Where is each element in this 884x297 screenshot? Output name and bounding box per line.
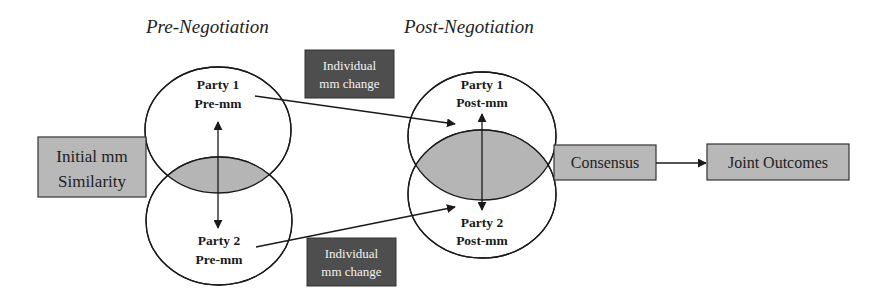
post-party1-sublabel: Post-mm bbox=[456, 95, 508, 110]
pre-party2-sublabel: Pre-mm bbox=[196, 252, 244, 267]
change-top-line2: mm change bbox=[319, 76, 380, 91]
joint-outcomes-label: Joint Outcomes bbox=[728, 154, 828, 171]
negotiation-mental-model-diagram: Pre-Negotiation Post-Negotiation Party 1… bbox=[0, 0, 884, 297]
post-negotiation-title: Post-Negotiation bbox=[403, 16, 534, 37]
change-top-line1: Individual bbox=[323, 58, 377, 73]
joint-outcomes-box: Joint Outcomes bbox=[707, 144, 849, 180]
post-party2-label: Party 2 bbox=[461, 215, 504, 230]
change-bottom-line1: Individual bbox=[325, 246, 379, 261]
initial-similarity-line2: Similarity bbox=[58, 172, 127, 191]
pre-party1-label: Party 1 bbox=[197, 77, 240, 92]
post-party2-sublabel: Post-mm bbox=[456, 233, 508, 248]
pre-negotiation-title: Pre-Negotiation bbox=[145, 16, 269, 37]
individual-change-box-top: Individual mm change bbox=[305, 50, 394, 98]
post-party1-label: Party 1 bbox=[461, 77, 504, 92]
individual-change-box-bottom: Individual mm change bbox=[307, 238, 396, 286]
pre-party1-sublabel: Pre-mm bbox=[195, 96, 243, 111]
change-bottom-line2: mm change bbox=[321, 264, 382, 279]
pre-party2-label: Party 2 bbox=[198, 233, 241, 248]
initial-similarity-box: Initial mm Similarity bbox=[38, 137, 146, 197]
initial-similarity-line1: Initial mm bbox=[56, 147, 127, 166]
consensus-box: Consensus bbox=[554, 145, 656, 180]
consensus-label: Consensus bbox=[571, 154, 639, 171]
